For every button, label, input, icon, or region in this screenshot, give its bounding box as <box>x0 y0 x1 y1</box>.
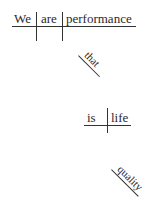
object-word: performance <box>66 12 132 25</box>
relative-subject-word: is <box>87 111 96 124</box>
main-baseline <box>12 26 136 27</box>
connector-word: that <box>82 49 102 69</box>
relative-object-word: life <box>111 111 128 124</box>
verb-word: are <box>41 12 57 25</box>
relative-divider <box>107 108 108 133</box>
subject-verb-divider <box>36 12 37 41</box>
subject-word: We <box>14 12 31 25</box>
verb-object-divider <box>62 12 63 41</box>
